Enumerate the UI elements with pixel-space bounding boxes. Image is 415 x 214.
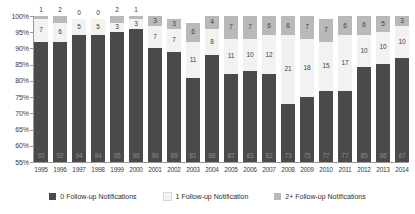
- bar-segment-series-1[interactable]: 7: [167, 29, 181, 52]
- bar-column[interactable]: 2395: [110, 16, 124, 162]
- x-axis-tick-label: 2007: [262, 165, 276, 177]
- bar-column[interactable]: 62173: [281, 16, 295, 162]
- bar-column[interactable]: 31087: [395, 16, 409, 162]
- bar-column[interactable]: 2692: [53, 16, 67, 162]
- bar-segment-series-1[interactable]: 5: [72, 19, 86, 35]
- bar-column[interactable]: 51086: [376, 16, 390, 162]
- bar-segment-series-2[interactable]: 6: [281, 16, 295, 35]
- bar-column[interactable]: 0594: [91, 16, 105, 162]
- bar-column[interactable]: 1792: [34, 16, 48, 162]
- bar-segment-value: 86: [380, 153, 387, 160]
- bar-segment-series-2[interactable]: 6: [186, 23, 200, 42]
- bar-segment-series-1[interactable]: 7: [148, 26, 162, 49]
- bar-segment-series-1[interactable]: 10: [357, 35, 371, 67]
- bar-segment-value: 89: [171, 153, 178, 160]
- bar-segment-series-1[interactable]: 18: [300, 39, 314, 97]
- bar-segment-series-0[interactable]: 82: [224, 74, 238, 162]
- bar-segment-series-0[interactable]: 89: [167, 52, 181, 162]
- bar-segment-series-0[interactable]: 82: [262, 74, 276, 162]
- bar-segment-series-0[interactable]: 96: [129, 29, 143, 162]
- bar-segment-series-1[interactable]: 3: [110, 23, 124, 33]
- bar-segment-value: 88: [209, 153, 216, 160]
- bar-segment-value: 6: [58, 29, 61, 36]
- bar-segment-series-2[interactable]: 3: [148, 16, 162, 26]
- bar-segment-series-0[interactable]: 92: [53, 42, 67, 162]
- bar-segment-series-1[interactable]: 11: [224, 39, 238, 75]
- bar-segment-series-0[interactable]: 90: [148, 48, 162, 162]
- bar-segment-value: 95: [114, 153, 121, 160]
- bar-segment-series-0[interactable]: 94: [91, 35, 105, 162]
- bar-segment-series-2[interactable]: 5: [376, 16, 390, 32]
- bar-segment-series-1[interactable]: 10: [395, 26, 409, 58]
- bar-segment-series-0[interactable]: 85: [357, 67, 371, 162]
- bar-segment-series-1[interactable]: 15: [319, 42, 333, 91]
- bar-segment-series-2[interactable]: 6: [262, 16, 276, 35]
- bar-column[interactable]: 0594: [72, 16, 86, 162]
- bar-segment-value: 92: [38, 153, 45, 160]
- legend-item[interactable]: 0 Follow-up Notifications: [49, 193, 136, 200]
- bar-segment-series-2[interactable]: 7: [300, 16, 314, 39]
- bar-segment-series-1[interactable]: 21: [281, 35, 295, 103]
- bar-segment-value: 7: [39, 27, 42, 34]
- bar-column[interactable]: 61282: [262, 16, 276, 162]
- bar-column[interactable]: 1396: [129, 16, 143, 162]
- y-axis-tick-label: 85%: [0, 61, 29, 68]
- bar-segment-series-0[interactable]: 81: [186, 78, 200, 162]
- bar-column[interactable]: 61777: [338, 16, 352, 162]
- bar-column[interactable]: 61181: [186, 16, 200, 162]
- bar-segment-value: 3: [134, 21, 137, 28]
- bar-segment-series-0[interactable]: 88: [205, 55, 219, 162]
- bar-column[interactable]: 3790: [148, 16, 162, 162]
- bar-segment-series-1[interactable]: 8: [205, 29, 219, 55]
- bar-segment-value: 83: [247, 153, 254, 160]
- bar-segment-series-1[interactable]: 7: [34, 19, 48, 42]
- bar-segment-series-0[interactable]: 92: [34, 42, 48, 162]
- bar-segment-series-0[interactable]: 94: [72, 35, 86, 162]
- bar-segment-value: 92: [57, 153, 64, 160]
- bar-segment-series-2[interactable]: 4: [205, 16, 219, 29]
- bar-column[interactable]: 61085: [357, 16, 371, 162]
- bar-segment-series-0[interactable]: 87: [395, 58, 409, 162]
- bar-segment-series-0[interactable]: 83: [243, 71, 257, 162]
- bar-segment-series-1[interactable]: 10: [376, 32, 390, 64]
- bar-column[interactable]: 3789: [167, 16, 181, 162]
- bar-segment-series-1[interactable]: 17: [338, 35, 352, 90]
- x-axis-tick-label: 2010: [319, 165, 333, 177]
- bar-column[interactable]: 71083: [243, 16, 257, 162]
- bar-segment-series-2[interactable]: 7: [224, 16, 238, 39]
- bar-segment-series-1[interactable]: 11: [186, 42, 200, 78]
- bar-segment-series-0[interactable]: 75: [300, 97, 314, 162]
- bar-segment-series-0[interactable]: 86: [376, 64, 390, 162]
- bar-segment-series-2[interactable]: 6: [338, 16, 352, 35]
- bar-segment-series-1[interactable]: 10: [243, 39, 257, 71]
- bar-segment-series-1[interactable]: 6: [53, 23, 67, 42]
- bar-segment-series-0[interactable]: 77: [338, 91, 352, 162]
- bar-segment-series-0[interactable]: 95: [110, 32, 124, 162]
- bar-segment-value: 5: [77, 24, 80, 31]
- bar-segment-series-2[interactable]: 7: [319, 19, 333, 42]
- legend-item[interactable]: 1 Follow-up Notification: [163, 192, 249, 201]
- bar-segment-series-2[interactable]: 3: [395, 16, 409, 26]
- x-axis-tick-label: 2001: [148, 165, 162, 177]
- bar-column[interactable]: 4888: [205, 16, 219, 162]
- bar-segment-series-2[interactable]: 3: [167, 19, 181, 29]
- bar-column[interactable]: 71182: [224, 16, 238, 162]
- bar-segment-series-0[interactable]: 77: [319, 91, 333, 162]
- bar-segment-series-2[interactable]: 6: [357, 16, 371, 35]
- x-axis-tick-label: 2011: [338, 165, 352, 177]
- bar-segment-series-1[interactable]: 12: [262, 35, 276, 74]
- x-axis-tick-label: 2006: [243, 165, 257, 177]
- bar-segment-value: 3: [115, 24, 118, 31]
- stacked-bar-chart: 100%95%90%85%80%75%70%65%60%55% 17922692…: [0, 0, 415, 214]
- bar-segment-series-2[interactable]: 7: [243, 16, 257, 39]
- y-axis-tick-label: 80%: [0, 77, 29, 84]
- bar-segment-series-1[interactable]: 3: [129, 19, 143, 29]
- bar-column[interactable]: 71875: [300, 16, 314, 162]
- bar-segment-series-1[interactable]: 5: [91, 19, 105, 35]
- bar-segment-value: 10: [247, 52, 254, 59]
- legend-label: 1 Follow-up Notification: [176, 193, 249, 200]
- bar-segment-series-0[interactable]: 73: [281, 104, 295, 162]
- bar-segment-value: 87: [399, 153, 406, 160]
- bar-column[interactable]: 71577: [319, 16, 333, 162]
- legend-item[interactable]: 2+ Follow-up Notifications: [274, 193, 365, 200]
